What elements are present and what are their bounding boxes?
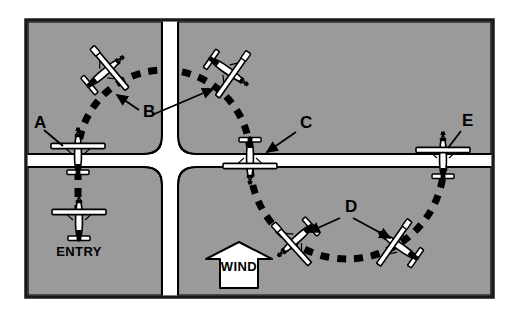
diagram-canvas: ABCDEENTRYWIND [0, 0, 515, 312]
label-B: B [143, 102, 155, 121]
label-C: C [300, 113, 312, 132]
label-D: D [345, 197, 357, 216]
s-turns-diagram: ABCDEENTRYWIND [0, 0, 515, 312]
diagram-interior: ABCDEENTRYWIND [28, 22, 492, 296]
label-E: E [462, 111, 473, 130]
label-WIND: WIND [221, 259, 257, 274]
label-ENTRY: ENTRY [56, 244, 102, 259]
field-block [28, 167, 163, 296]
label-A: A [34, 113, 46, 132]
